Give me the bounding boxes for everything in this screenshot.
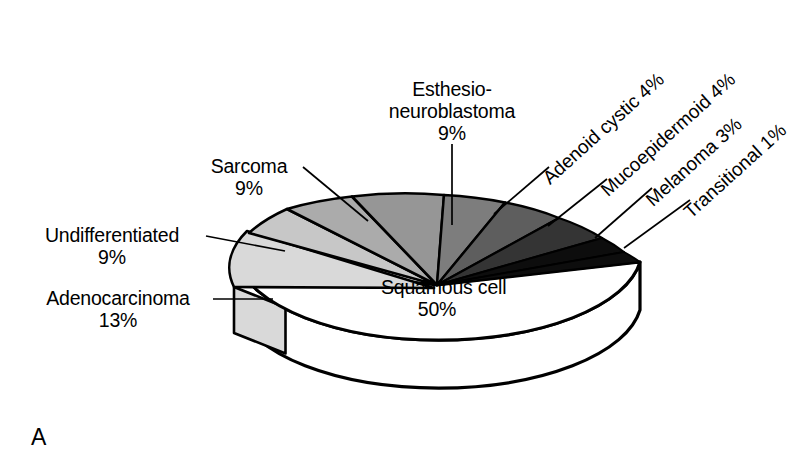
- panel-letter: A: [31, 424, 46, 451]
- label-squamous-cell-pct: 50%: [381, 298, 493, 320]
- label-undifferentiated: Undifferentiated 9%: [19, 224, 205, 268]
- label-squamous-cell-name: Squamous cell: [381, 276, 506, 298]
- label-squamous-cell: Squamous cell 50%: [381, 276, 493, 320]
- label-esthesioneuroblastoma-line2: neuroblastoma: [372, 100, 532, 122]
- label-adenocarcinoma-pct: 13%: [23, 309, 213, 331]
- label-esthesioneuroblastoma: Esthesio- neuroblastoma 9%: [372, 78, 532, 145]
- label-esthesioneuroblastoma-pct: 9%: [372, 122, 532, 144]
- label-sarcoma-pct: 9%: [200, 177, 298, 199]
- label-undifferentiated-pct: 9%: [19, 246, 205, 268]
- label-esthesioneuroblastoma-line1: Esthesio-: [412, 78, 492, 100]
- label-adenocarcinoma-name: Adenocarcinoma: [46, 287, 190, 309]
- label-undifferentiated-name: Undifferentiated: [45, 224, 179, 246]
- label-adenocarcinoma: Adenocarcinoma 13%: [23, 287, 213, 331]
- label-sarcoma: Sarcoma 9%: [200, 155, 298, 199]
- label-sarcoma-name: Sarcoma: [211, 155, 288, 177]
